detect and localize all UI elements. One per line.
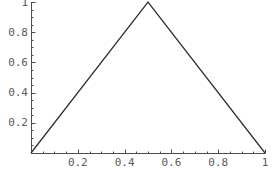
x-tick-label: 1 [128,157,276,168]
y-tick-label: 0.6 [8,57,28,68]
triangle-wave-line [31,2,265,153]
data-group [31,2,265,153]
plot-screenshot: 0.20.40.60.81 0.20.40.60.81 [0,0,275,170]
y-axis-ticks [32,3,36,146]
y-tick-label: 0.4 [8,87,28,98]
y-tick-label: 0.2 [8,117,28,128]
plot-canvas [0,0,275,170]
y-tick-label: 1 [21,0,28,8]
y-tick-label: 0.8 [8,27,28,38]
x-axis-ticks [44,150,266,154]
axes-group [31,2,266,154]
